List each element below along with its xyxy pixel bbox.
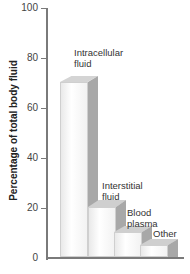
y-axis [46, 8, 48, 260]
tick-label-20: 20 [12, 203, 38, 213]
tick-label-80: 80 [12, 53, 38, 63]
tick-60 [41, 108, 46, 109]
tick-label-0: 0 [12, 253, 38, 263]
label-other: Other [153, 228, 177, 239]
label-intracellular: Intracellular fluid [74, 47, 123, 69]
tick-100 [41, 8, 46, 9]
tick-label-60: 60 [12, 103, 38, 113]
tick-label-40: 40 [12, 153, 38, 163]
tick-20 [41, 208, 46, 209]
bar-other [140, 239, 178, 257]
tick-label-100: 100 [12, 3, 38, 13]
label-blood-plasma: Blood plasma [127, 207, 158, 229]
tick-80 [41, 58, 46, 59]
tick-40 [41, 158, 46, 159]
y-axis-label: Percentage of total body fluid [8, 56, 19, 206]
label-interstitial: Interstitial fluid [102, 180, 143, 202]
x-axis [46, 257, 184, 259]
